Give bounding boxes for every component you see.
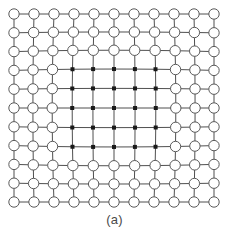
mesh-node-outer[interactable] (129, 179, 139, 189)
mesh-node-outer[interactable] (47, 64, 57, 74)
mesh-node-outer[interactable] (169, 197, 179, 207)
mesh-node-inner[interactable] (154, 126, 158, 130)
mesh-node-outer[interactable] (9, 159, 19, 169)
mesh-node-outer[interactable] (9, 65, 19, 75)
mesh-node-outer[interactable] (209, 103, 219, 113)
mesh-node-inner[interactable] (70, 67, 74, 71)
mesh-node-inner[interactable] (133, 106, 137, 110)
mesh-node-inner[interactable] (154, 87, 158, 91)
mesh-node-outer[interactable] (190, 103, 200, 113)
mesh-node-outer[interactable] (209, 178, 219, 188)
mesh-node-outer[interactable] (109, 45, 119, 55)
mesh-node-outer[interactable] (69, 9, 79, 19)
mesh-node-outer[interactable] (209, 140, 219, 150)
mesh-node-inner[interactable] (154, 106, 158, 110)
mesh-node-outer[interactable] (149, 179, 159, 189)
mesh-node-outer[interactable] (68, 27, 78, 37)
mesh-node-inner[interactable] (91, 67, 95, 71)
mesh-node-outer[interactable] (209, 9, 219, 19)
mesh-node-outer[interactable] (28, 46, 38, 56)
mesh-node-outer[interactable] (49, 197, 59, 207)
mesh-node-outer[interactable] (47, 103, 57, 113)
mesh-node-outer[interactable] (171, 122, 181, 132)
mesh-node-inner[interactable] (91, 86, 95, 90)
mesh-node-outer[interactable] (109, 179, 119, 189)
mesh-node-outer[interactable] (68, 160, 78, 170)
mesh-node-inner[interactable] (112, 106, 116, 110)
mesh-node-outer[interactable] (48, 179, 58, 189)
mesh-node-outer[interactable] (209, 65, 219, 75)
mesh-node-outer[interactable] (129, 197, 139, 207)
mesh-node-outer[interactable] (169, 27, 179, 37)
mesh-node-outer[interactable] (129, 27, 139, 37)
mesh-node-outer[interactable] (190, 122, 200, 132)
mesh-node-outer[interactable] (209, 84, 219, 94)
mesh-node-outer[interactable] (47, 122, 57, 132)
mesh-node-outer[interactable] (9, 140, 19, 150)
mesh-node-outer[interactable] (209, 159, 219, 169)
mesh-node-outer[interactable] (28, 27, 38, 37)
mesh-node-inner[interactable] (112, 145, 116, 149)
mesh-node-inner[interactable] (133, 67, 137, 71)
mesh-node-outer[interactable] (89, 9, 99, 19)
mesh-node-outer[interactable] (190, 84, 200, 94)
mesh-node-outer[interactable] (47, 141, 57, 151)
mesh-node-outer[interactable] (190, 65, 200, 75)
mesh-node-outer[interactable] (109, 27, 119, 37)
mesh-node-outer[interactable] (189, 27, 199, 37)
mesh-node-outer[interactable] (149, 197, 159, 207)
mesh-node-outer[interactable] (88, 27, 98, 37)
mesh-node-outer[interactable] (129, 45, 139, 55)
mesh-node-outer[interactable] (170, 46, 180, 56)
mesh-node-outer[interactable] (209, 46, 219, 56)
mesh-node-outer[interactable] (109, 197, 119, 207)
mesh-node-outer[interactable] (109, 161, 119, 171)
mesh-node-outer[interactable] (28, 103, 38, 113)
mesh-node-outer[interactable] (129, 9, 139, 19)
mesh-node-outer[interactable] (171, 103, 181, 113)
mesh-node-outer[interactable] (28, 141, 38, 151)
mesh-node-outer[interactable] (189, 160, 199, 170)
mesh-node-outer[interactable] (9, 28, 19, 38)
mesh-node-outer[interactable] (28, 160, 38, 170)
mesh-node-outer[interactable] (209, 28, 219, 38)
mesh-node-outer[interactable] (88, 161, 98, 171)
mesh-node-outer[interactable] (189, 46, 199, 56)
mesh-node-outer[interactable] (28, 84, 38, 94)
mesh-node-outer[interactable] (9, 122, 19, 132)
mesh-node-outer[interactable] (170, 141, 180, 151)
mesh-node-inner[interactable] (154, 145, 158, 149)
mesh-node-inner[interactable] (91, 106, 95, 110)
mesh-node-outer[interactable] (150, 160, 160, 170)
mesh-node-inner[interactable] (154, 67, 158, 71)
mesh-node-outer[interactable] (29, 9, 39, 19)
mesh-node-inner[interactable] (112, 86, 116, 90)
mesh-node-outer[interactable] (69, 197, 79, 207)
mesh-node-inner[interactable] (133, 86, 137, 90)
mesh-node-outer[interactable] (169, 9, 179, 19)
mesh-node-outer[interactable] (88, 179, 98, 189)
mesh-node-outer[interactable] (9, 197, 19, 207)
mesh-node-outer[interactable] (9, 46, 19, 56)
mesh-node-inner[interactable] (70, 106, 74, 110)
mesh-node-outer[interactable] (48, 27, 58, 37)
mesh-node-outer[interactable] (170, 64, 180, 74)
mesh-node-outer[interactable] (209, 122, 219, 132)
mesh-node-inner[interactable] (112, 67, 116, 71)
mesh-node-outer[interactable] (9, 9, 19, 19)
mesh-node-outer[interactable] (171, 83, 181, 93)
mesh-node-outer[interactable] (189, 197, 199, 207)
mesh-node-outer[interactable] (88, 45, 98, 55)
mesh-node-outer[interactable] (209, 197, 219, 207)
mesh-node-outer[interactable] (9, 178, 19, 188)
mesh-node-outer[interactable] (29, 197, 39, 207)
mesh-node-inner[interactable] (133, 126, 137, 130)
mesh-node-inner[interactable] (91, 145, 95, 149)
mesh-node-inner[interactable] (70, 145, 74, 149)
mesh-node-outer[interactable] (68, 179, 78, 189)
mesh-node-outer[interactable] (47, 83, 57, 93)
mesh-node-outer[interactable] (169, 179, 179, 189)
mesh-node-inner[interactable] (112, 126, 116, 130)
mesh-node-outer[interactable] (28, 122, 38, 132)
mesh-node-outer[interactable] (48, 46, 58, 56)
